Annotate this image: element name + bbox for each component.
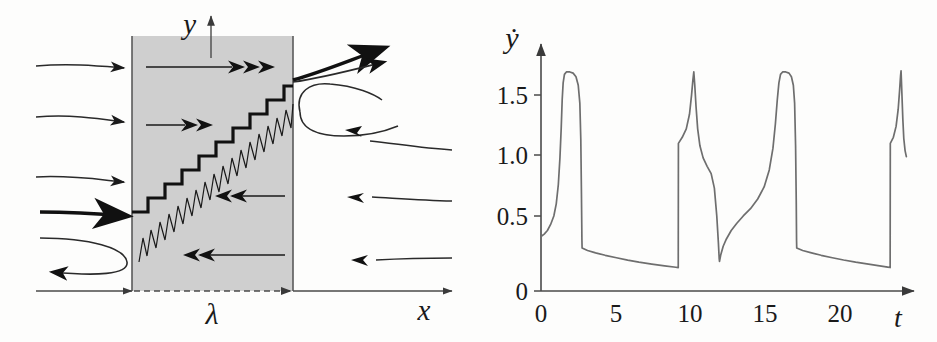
x-tick-label-1: 5 — [610, 300, 623, 327]
x-tick-label-2: 10 — [678, 300, 703, 327]
inflow-streamline-3 — [36, 177, 124, 182]
shaded-band — [132, 36, 293, 291]
data-curve — [541, 71, 906, 268]
x-tick-label-0: 0 — [535, 300, 548, 327]
y-axis-label: y — [180, 8, 196, 40]
plot-svg: 0 0.5 1.0 1.5 0 5 10 15 20 t ẏ — [470, 0, 937, 342]
velocity-time-plot-panel: 0 0.5 1.0 1.5 0 5 10 15 20 t ẏ — [470, 0, 937, 342]
y-tick-label-1: 0.5 — [497, 203, 528, 230]
right-inflow-streamline-2 — [372, 197, 452, 201]
x-tick-label-3: 15 — [753, 300, 778, 327]
recirculation-streamline-right — [299, 84, 382, 112]
x-axis-label: x — [417, 294, 431, 326]
recirculation-streamline-right-lower — [300, 112, 398, 136]
right-inflow-arrowhead-3 — [351, 255, 368, 266]
right-inflow-streamline-3 — [376, 258, 452, 260]
schematic-svg: λ x y — [0, 0, 470, 342]
inflow-streamline-1 — [36, 65, 124, 68]
y-axis-title: ẏ — [502, 21, 519, 54]
y-tick-label-2: 1.0 — [497, 142, 528, 169]
x-axis-title: t — [894, 302, 903, 333]
inflow-streamline-2 — [36, 116, 124, 122]
x-tick-label-4: 20 — [828, 300, 853, 327]
right-inflow-arrowhead-2 — [347, 193, 364, 203]
right-inflow-streamline-1-shaft — [370, 141, 452, 150]
flow-schematic-panel: λ x y — [0, 0, 470, 342]
figure-root: λ x y — [0, 0, 937, 342]
recirculation-streamline-left — [40, 238, 127, 274]
inflow-streamline-bold — [40, 212, 127, 216]
lambda-label: λ — [205, 297, 219, 330]
y-tick-label-0: 0 — [516, 278, 529, 305]
y-tick-label-3: 1.5 — [497, 82, 528, 109]
y-tick-group — [534, 95, 541, 291]
outflow-arrow-bold-1 — [293, 48, 384, 80]
